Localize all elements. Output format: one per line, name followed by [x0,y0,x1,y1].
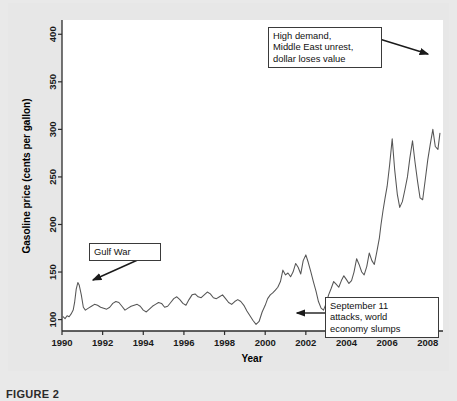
y-tick-label: 150 [47,264,58,280]
y-tick-label: 250 [47,169,58,185]
x-tick-label: 1998 [214,337,235,348]
x-tick-label: 1990 [51,337,72,348]
annotation-high-demand: High demand, Middle East unrest, dollar … [268,27,382,68]
x-tick-label: 2002 [295,337,316,348]
data-series-gasoline-price [63,129,440,324]
x-tick-label: 1996 [173,337,194,348]
figure-container: 100150200250300350400 199019921994199619… [0,0,457,401]
y-tick-label: 350 [47,74,58,90]
y-tick-label: 100 [47,312,58,328]
figure-caption: FIGURE 2 [6,388,59,401]
x-tick-label: 2004 [336,337,358,348]
x-axis-title: Year [241,353,262,364]
x-tick-label: 2008 [417,337,438,348]
x-tick-label: 2006 [377,337,398,348]
x-tick-label: 2000 [255,337,276,348]
annotation-september-11: September 11 attacks, world economy slum… [325,297,439,338]
y-axis-ticks: 100150200250300350400 [47,26,62,327]
axis-lines [62,20,443,331]
annotation-gulf-war: Gulf War [89,243,161,261]
y-axis-title: Gasoline price (cents per gallon) [21,98,32,253]
y-tick-label: 400 [47,26,58,42]
y-tick-label: 300 [47,121,58,137]
x-tick-label: 1994 [133,337,155,348]
gasoline-price-line-chart: 100150200250300350400 199019921994199619… [0,0,457,401]
x-tick-label: 1992 [92,337,113,348]
y-tick-label: 200 [47,217,58,233]
annotation-arrows [93,37,428,313]
